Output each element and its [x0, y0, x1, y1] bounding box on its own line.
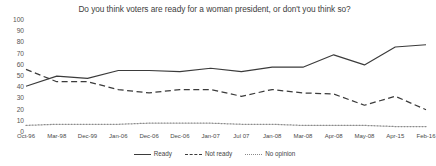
- legend-label: No opinion: [265, 150, 295, 157]
- y-axis-tick: 40: [2, 83, 24, 90]
- x-axis-tick: Dec-06: [139, 133, 158, 139]
- y-axis: 0102030405060708090100: [0, 19, 24, 131]
- x-axis-tick: Apr-08: [325, 133, 343, 139]
- x-axis-tick: Mar-98: [47, 133, 66, 139]
- x-axis-tick: Mar-08: [293, 133, 312, 139]
- y-axis-tick: 20: [2, 105, 24, 112]
- legend-swatch-icon: [185, 151, 202, 157]
- y-axis-tick: 30: [2, 94, 24, 101]
- series-line: [26, 69, 426, 109]
- legend-item[interactable]: Ready: [134, 150, 172, 157]
- series-line: [26, 45, 426, 86]
- legend-label: Ready: [154, 150, 172, 157]
- x-axis-tick: Jan-07: [201, 133, 219, 139]
- x-axis-tick: Feb-16: [416, 133, 435, 139]
- y-axis-tick: 10: [2, 116, 24, 123]
- series-lines: [26, 19, 426, 131]
- x-axis-tick: May-08: [354, 133, 374, 139]
- x-axis-tick: Dec-99: [78, 133, 97, 139]
- legend-label: Not ready: [205, 150, 232, 157]
- x-axis-tick: Jan-08: [263, 133, 281, 139]
- plot-area: [26, 19, 426, 131]
- chart-title: Do you think voters are ready for a woma…: [0, 4, 429, 14]
- y-axis-tick: 100: [2, 16, 24, 23]
- y-axis-tick: 90: [2, 27, 24, 34]
- legend-item[interactable]: No opinion: [245, 150, 295, 157]
- x-axis-tick: Dec-06: [170, 133, 189, 139]
- y-axis-tick: 80: [2, 38, 24, 45]
- y-axis-tick: 50: [2, 72, 24, 79]
- series-line: [26, 123, 426, 126]
- legend-item[interactable]: Not ready: [185, 150, 232, 157]
- legend-swatch-icon: [134, 151, 151, 157]
- x-axis-tick: Oct-96: [17, 133, 35, 139]
- y-axis-tick: 60: [2, 60, 24, 67]
- legend-swatch-icon: [245, 151, 262, 157]
- x-axis-tick: Jul 07: [233, 133, 249, 139]
- x-axis-tick: Jan-06: [109, 133, 127, 139]
- y-axis-tick: 70: [2, 49, 24, 56]
- x-axis-tick: Apr-15: [386, 133, 404, 139]
- chart-legend: ReadyNot readyNo opinion: [0, 150, 429, 157]
- x-axis: Oct-96Mar-98Dec-99Jan-06Dec-06Dec-06Jan-…: [26, 133, 426, 145]
